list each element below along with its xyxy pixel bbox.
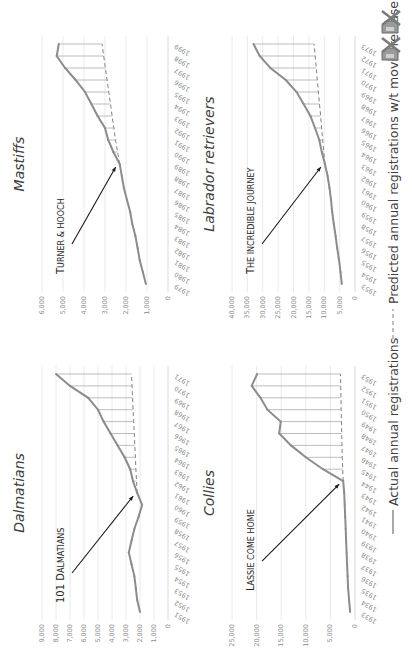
legend-actual-label: Actual annual registrations [386, 338, 401, 506]
y-tick-label: 5,000 [326, 624, 334, 643]
actual-data-point [318, 139, 320, 141]
actual-data-point [110, 433, 112, 435]
actual-data-point [129, 211, 131, 213]
actual-data-point [134, 235, 136, 237]
actual-data-point [349, 611, 351, 613]
actual-data-point [124, 456, 126, 458]
actual-data-point [344, 504, 346, 506]
actual-data-point [126, 199, 128, 201]
y-tick-label: 5,000 [94, 624, 102, 643]
panel-mastiffs: Mastiffs01,0002,0003,0004,0005,0006,0001… [11, 36, 191, 315]
actual-data-point [84, 91, 86, 93]
y-tick-label: 25,000 [274, 296, 282, 319]
actual-data-point [328, 187, 330, 189]
annotation-label: 101 DALMATIANS [55, 528, 66, 603]
actual-data-point [324, 163, 326, 165]
actual-data-point [321, 151, 323, 153]
actual-data-point [129, 468, 131, 470]
actual-data-point [345, 540, 347, 542]
annotation-label-rest: ALMATIANS [57, 528, 66, 573]
annotation-arrow [72, 496, 133, 573]
chart-title: Dalmatians [11, 453, 27, 533]
actual-data-point [117, 444, 119, 446]
actual-data-point [123, 187, 125, 189]
y-tick-label: 1,000 [150, 624, 158, 643]
y-tick-label: 3,000 [122, 624, 130, 643]
y-tick-label: 10,000 [320, 296, 328, 319]
actual-data-point [104, 127, 106, 129]
actual-data-point [128, 552, 130, 554]
annotation-arrow [262, 484, 339, 561]
actual-data-point [346, 563, 348, 565]
actual-data-point [136, 599, 138, 601]
y-tick-label: 2,000 [136, 624, 144, 643]
actual-data-point [136, 492, 138, 494]
y-tick-label: 15,000 [305, 296, 313, 319]
x-tick-label: 1953 [360, 372, 378, 387]
chart-title: Collies [201, 470, 217, 516]
actual-data-point [278, 433, 280, 435]
y-tick-label: 5,000 [336, 296, 344, 315]
y-tick-label: 10,000 [302, 624, 310, 647]
actual-data-point [55, 373, 57, 375]
actual-data-point [58, 43, 60, 45]
actual-data-point [253, 43, 255, 45]
y-tick-label: 0 [351, 624, 359, 628]
annotation-label-rest: HE INCREDIBLE JOURNEY [247, 168, 256, 268]
actual-data-point [338, 259, 340, 261]
actual-data-point [346, 552, 348, 554]
actual-data-point [343, 492, 345, 494]
y-tick-label: 20,000 [290, 296, 298, 319]
actual-data-point [327, 175, 329, 177]
y-tick-label: 3,000 [101, 296, 109, 315]
actual-data-point [305, 456, 307, 458]
actual-data-point [290, 444, 292, 446]
actual-data-point [303, 103, 305, 105]
actual-data-point [331, 211, 333, 213]
actual-data-point [139, 259, 141, 261]
actual-data-point [90, 103, 92, 105]
annotation-label: TURNER & HOOCH [55, 198, 66, 275]
actual-data-point [330, 199, 332, 201]
actual-data-point [131, 223, 133, 225]
x-tick-label: 1999 [173, 42, 191, 57]
actual-data-point [139, 611, 141, 613]
actual-data-point [335, 235, 337, 237]
actual-data-point [131, 540, 133, 542]
annotation-label-cap: 101 D [55, 573, 66, 603]
annotation-label-rest: URNER & HOOCH [57, 198, 66, 268]
actual-data-point [314, 127, 316, 129]
y-tick-label: 0 [351, 296, 359, 300]
actual-data-point [345, 528, 347, 530]
actual-data-point [132, 480, 134, 482]
actual-data-point [119, 163, 121, 165]
actual-data-point [56, 55, 58, 57]
actual-data-point [103, 421, 105, 423]
actual-data-point [256, 373, 258, 375]
actual-data-point [309, 115, 311, 117]
actual-data-point [348, 599, 350, 601]
actual-data-point [259, 55, 261, 57]
annotation-arrow [72, 167, 116, 244]
actual-data-point [285, 79, 287, 81]
y-tick-label: 20,000 [253, 624, 261, 647]
y-tick-label: 40,000 [228, 296, 236, 319]
y-tick-label: 15,000 [277, 624, 285, 647]
chart-figure: Dalmatians01,0002,0003,0004,0005,0006,00… [0, 0, 412, 662]
actual-data-point [333, 223, 335, 225]
annotation-label-rest: ASSIE COME HOME [247, 509, 256, 585]
actual-data-point [251, 385, 253, 387]
actual-data-point [107, 139, 109, 141]
legend: Actual annual registrations Predicted an… [386, 1, 401, 534]
actual-data-point [112, 151, 114, 153]
actual-data-point [266, 409, 268, 411]
actual-data-point [269, 67, 271, 69]
actual-data-point [64, 67, 66, 69]
actual-data-point [131, 563, 133, 565]
actual-data-point [336, 247, 338, 249]
y-tick-label: 4,000 [108, 624, 116, 643]
actual-data-point [87, 397, 89, 399]
y-tick-label: 30,000 [259, 296, 267, 319]
actual-data-point [260, 397, 262, 399]
x-tick-label: 1973 [360, 42, 378, 57]
